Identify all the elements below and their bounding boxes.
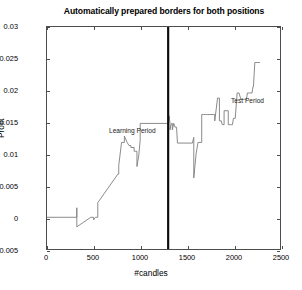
y-tick-mark: [277, 59, 280, 60]
x-tick-mark: [282, 27, 283, 30]
y-axis-label: Profit: [0, 118, 6, 138]
y-tick-label: 0.025: [0, 54, 18, 63]
profit-line: [47, 63, 260, 227]
y-tick-mark: [47, 219, 50, 220]
x-tick-mark: [94, 27, 95, 30]
y-tick-mark: [277, 187, 280, 188]
y-tick-mark: [47, 187, 50, 188]
x-tick-label: 2000: [214, 253, 254, 262]
x-tick-mark: [188, 246, 189, 249]
x-tick-mark: [141, 246, 142, 249]
y-tick-mark: [47, 251, 50, 252]
annotation-test-period: Test Period: [231, 97, 264, 104]
y-tick-label: -0.005: [0, 246, 18, 255]
x-tick-mark: [47, 246, 48, 249]
x-axis-label: #candles: [0, 268, 302, 278]
y-tick-mark: [47, 123, 50, 124]
page-title: Automatically prepared borders for both …: [46, 6, 282, 16]
y-tick-label: 0.03: [0, 22, 18, 31]
y-tick-mark: [47, 91, 50, 92]
x-tick-mark: [94, 246, 95, 249]
x-tick-mark: [282, 246, 283, 249]
y-tick-mark: [47, 155, 50, 156]
y-tick-label: 0.02: [0, 86, 18, 95]
y-tick-mark: [277, 91, 280, 92]
x-tick-label: 2500: [261, 253, 301, 262]
plot-area: Learning Period Test Period: [46, 26, 281, 250]
x-tick-mark: [235, 246, 236, 249]
x-tick-label: 0: [26, 253, 66, 262]
y-tick-label: 0.005: [0, 182, 18, 191]
x-tick-label: 500: [73, 253, 113, 262]
profit-series-svg: [47, 27, 280, 249]
x-tick-label: 1500: [167, 253, 207, 262]
chart-figure: Automatically prepared borders for both …: [0, 0, 302, 290]
y-tick-mark: [277, 123, 280, 124]
y-tick-label: 0.01: [0, 150, 18, 159]
plot-inner: [47, 27, 280, 249]
y-tick-mark: [277, 219, 280, 220]
y-tick-label: 0: [0, 214, 18, 223]
y-tick-mark: [47, 59, 50, 60]
annotation-learning-period: Learning Period: [109, 127, 156, 134]
x-tick-mark: [188, 27, 189, 30]
y-tick-mark: [277, 27, 280, 28]
y-tick-mark: [277, 251, 280, 252]
x-tick-mark: [235, 27, 236, 30]
x-tick-label: 1000: [120, 253, 160, 262]
x-tick-mark: [141, 27, 142, 30]
y-tick-mark: [277, 155, 280, 156]
x-tick-mark: [47, 27, 48, 30]
